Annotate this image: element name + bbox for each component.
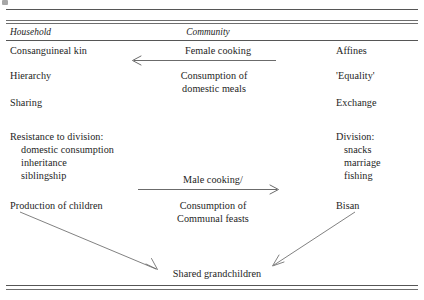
- left-item-consanguineal-kin: Consanguineal kin: [10, 45, 87, 57]
- household-community-table: Household Community Consanguineal kin Hi…: [0, 0, 424, 300]
- right-item-bisan: Bisan: [336, 200, 359, 212]
- right-item-exchange: Exchange: [336, 97, 377, 109]
- top-rule-inner-2: [6, 23, 418, 24]
- middle-item-consumption-of: Consumption of: [181, 70, 248, 82]
- left-item-domestic-consumption: domestic consumption: [21, 144, 114, 156]
- middle-item-female-cooking: Female cooking: [185, 45, 251, 57]
- middle-item-communal-feasts: Communal feasts: [177, 213, 249, 225]
- right-item-affines: Affines: [336, 45, 367, 57]
- left-item-inheritance: inheritance: [21, 157, 67, 169]
- header-separator-rule: [6, 40, 418, 41]
- left-item-siblingship: siblingship: [21, 170, 66, 182]
- bottom-rule-inner: [6, 289, 418, 290]
- right-item-equality: 'Equality': [336, 70, 375, 82]
- bisan-to-grandchildren-arrow: [273, 212, 356, 266]
- bottom-rule-outer: [6, 285, 418, 286]
- left-item-production-of-children: Production of children: [10, 200, 103, 212]
- right-item-snacks: snacks: [344, 144, 371, 156]
- column-header-community: Community: [186, 26, 230, 38]
- top-rule-outer: [6, 9, 418, 10]
- middle-item-male-cooking: Male cooking/: [183, 174, 243, 186]
- middle-item-domestic-meals: domestic meals: [182, 83, 246, 95]
- bottom-label-shared-grandchildren: Shared grandchildren: [173, 268, 261, 280]
- right-item-fishing: fishing: [344, 170, 373, 182]
- top-rule-inner: [6, 20, 418, 21]
- right-item-division: Division:: [336, 131, 374, 143]
- left-item-hierarchy: Hierarchy: [10, 70, 51, 82]
- scan-artifact: [2, 0, 8, 5]
- production-to-grandchildren-arrow: [20, 212, 158, 270]
- left-item-sharing: Sharing: [10, 97, 42, 109]
- right-item-marriage: marriage: [344, 157, 381, 169]
- column-header-household: Household: [10, 26, 51, 38]
- left-item-resistance-to-division: Resistance to division:: [10, 131, 103, 143]
- middle-item-consumption-of-2: Consumption of: [180, 200, 247, 212]
